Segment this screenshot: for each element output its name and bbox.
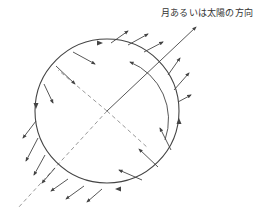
dashed-axis-line [18, 111, 107, 208]
flow-arrow [73, 52, 95, 64]
dashed-axis-line [107, 111, 148, 148]
flow-arrow [23, 121, 36, 138]
flow-arrow [87, 189, 102, 202]
flow-arrow [128, 34, 148, 45]
flow-arrow [144, 42, 163, 52]
flow-arrow [34, 155, 45, 175]
dashed-axis-line [58, 70, 107, 111]
flow-arrow [56, 66, 75, 84]
circle-arrowhead-icon [177, 118, 182, 124]
direction-arrow [107, 27, 196, 111]
flow-arrows [23, 31, 191, 202]
flow-arrow [160, 128, 171, 150]
flow-arrow [168, 58, 180, 75]
tidal-flow-diagram [0, 0, 268, 219]
flow-arrow [139, 149, 158, 167]
flow-arrow [44, 84, 53, 103]
flow-arrow [178, 95, 191, 102]
circle-arrowhead-icon [115, 187, 121, 192]
flow-arrow [51, 179, 68, 191]
flow-arrow [66, 186, 84, 199]
flow-arrow [42, 168, 55, 183]
circle-arrowhead-icon [34, 103, 39, 109]
inner-flow-arc [130, 62, 169, 140]
flow-arrow [174, 73, 189, 90]
moon-sun-direction-label: 月あるいは太陽の方向 [161, 6, 253, 19]
flow-arrow [26, 138, 38, 161]
circle-arrowhead-icon [97, 41, 103, 46]
main-lines [35, 27, 196, 183]
